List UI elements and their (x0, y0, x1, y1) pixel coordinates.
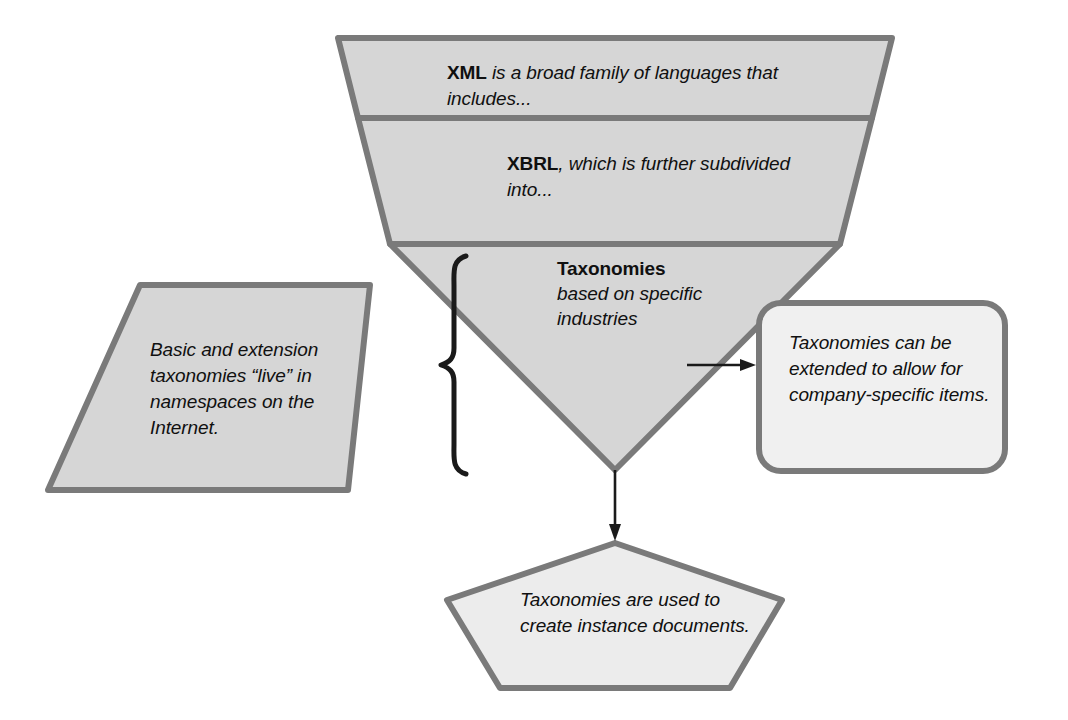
funnel-band-xml-body: is a broad family of languages that incl… (447, 62, 783, 109)
bottom-note-label: Taxonomies are used to create instance d… (520, 587, 750, 639)
funnel-band-xbrl-label: XBRL, which is further subdivided into..… (507, 151, 837, 203)
funnel-band-taxonomies-body: based on specific industries (557, 283, 707, 329)
funnel-band-xbrl-keyword: XBRL (507, 153, 558, 174)
left-note-label: Basic and extension taxonomies “live” in… (150, 337, 365, 441)
diagram-canvas: XML is a broad family of languages that … (0, 0, 1068, 720)
arrow-to-bottom-note (609, 470, 621, 541)
right-note-label: Taxonomies can be extended to allow for … (789, 330, 1004, 408)
funnel-band-taxonomies-label: Taxonomiesbased on specific industries (557, 256, 757, 331)
funnel-band-xml-keyword: XML (447, 62, 487, 83)
funnel-band-taxonomies-keyword: Taxonomies (557, 256, 757, 281)
funnel-band-xml-label: XML is a broad family of languages that … (447, 60, 867, 112)
